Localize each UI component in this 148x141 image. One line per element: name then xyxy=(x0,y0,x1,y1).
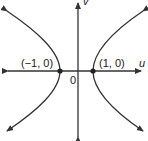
u-axis-label: u xyxy=(139,58,145,69)
diagram-canvas xyxy=(0,0,148,141)
v-axis-label: v xyxy=(83,0,89,7)
point-label-1-0: (1, 0) xyxy=(99,58,125,69)
point-label-neg1-0: (−1, 0) xyxy=(21,58,53,69)
hyperbola-diagram: v u (−1, 0) (1, 0) 0 xyxy=(0,0,148,141)
point-1-0 xyxy=(90,68,95,73)
point-neg1-0 xyxy=(57,68,62,73)
origin-label: 0 xyxy=(70,75,76,86)
